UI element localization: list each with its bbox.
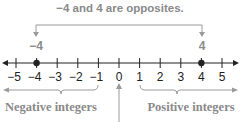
tick-label: 3: [177, 70, 184, 84]
tick-label: −2: [69, 70, 83, 84]
tick-label: 2: [157, 70, 164, 84]
arrow-right-icon: [232, 88, 238, 93]
arrow-down-icon: [33, 32, 39, 37]
negative-integers-label: Negative integers: [5, 100, 97, 114]
tick-label: 1: [136, 70, 143, 84]
opposite-left-label: −4: [29, 39, 43, 53]
arrow-left-icon: [3, 88, 9, 93]
point-marker: [33, 60, 39, 66]
positive-brace: [140, 85, 238, 94]
point-marker: [198, 60, 204, 66]
tick-label: −5: [7, 70, 21, 84]
diagram-title: −4 and 4 are opposites.: [56, 2, 184, 14]
opposite-right-label: 4: [199, 39, 206, 53]
opposites-bracket: [33, 25, 205, 37]
tick-labels: −5−4−3−2−1012345: [7, 70, 226, 84]
negative-brace: [3, 85, 98, 94]
tick-label: 4: [198, 70, 205, 84]
zero-pointer: [116, 83, 122, 122]
tick-label: −4: [28, 70, 42, 84]
positive-integers-label: Positive integers: [147, 100, 234, 114]
tick-label: −3: [48, 70, 62, 84]
arrow-down-icon: [199, 32, 205, 37]
tick-label: −1: [90, 70, 104, 84]
number-line-diagram: −4 and 4 are opposites. −4 4 −5−4−3−2−10…: [0, 0, 241, 122]
tick-label: 5: [219, 70, 226, 84]
arrow-right-icon: [233, 60, 239, 66]
tick-label: 0: [116, 70, 123, 84]
arrow-left-icon: [2, 60, 8, 66]
